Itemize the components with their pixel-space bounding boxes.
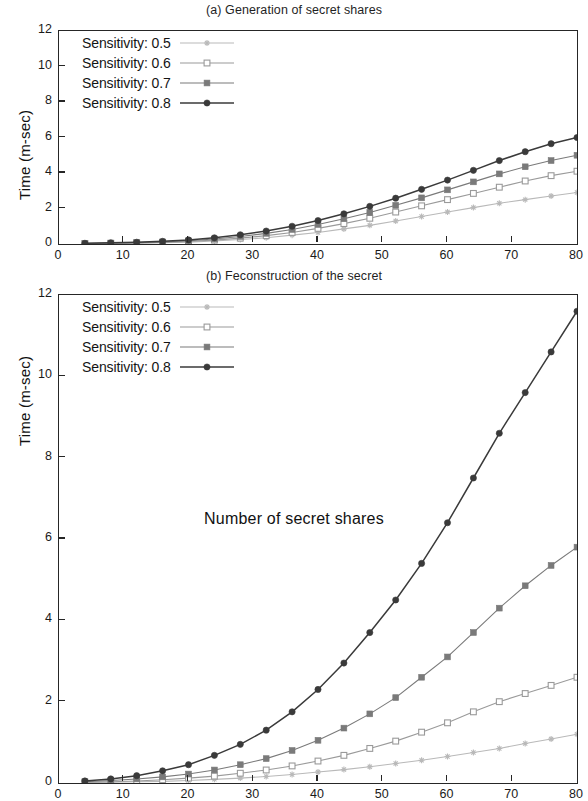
y-tick-mark [59, 456, 65, 457]
x-tick-label: 0 [38, 787, 78, 801]
legend-sample-open-square-icon [178, 55, 236, 71]
panel-a-y-axis-title: Time (m-sec) [16, 110, 33, 200]
y-tick-mark [59, 207, 65, 208]
series-sensitivity-0-6 [82, 168, 577, 244]
legend-label: Sensitivity: 0.6 [82, 55, 171, 71]
legend-label: Sensitivity: 0.7 [82, 339, 171, 355]
series-sensitivity-0-7 [82, 544, 577, 783]
legend-sample-open-square-icon [178, 319, 236, 335]
y-tick-label: 12 [24, 22, 52, 36]
legend-label: Sensitivity: 0.6 [82, 319, 171, 335]
legend-sample-filled-circle-icon [178, 359, 236, 375]
legend-label: Sensitivity: 0.5 [82, 299, 171, 315]
x-tick-mark [446, 236, 447, 242]
x-tick-label: 0 [38, 248, 78, 262]
x-tick-mark [122, 775, 123, 781]
y-tick-mark [59, 537, 65, 538]
y-tick-label: 6 [24, 129, 52, 143]
x-tick-label: 60 [427, 787, 467, 801]
legend-item-sensitivity-0-6[interactable]: Sensitivity: 0.6 [82, 53, 236, 72]
x-tick-label: 70 [491, 248, 531, 262]
x-tick-mark [381, 236, 382, 242]
x-tick-label: 40 [297, 248, 337, 262]
panel-a-title: (a) Generation of secret shares [0, 3, 588, 17]
x-tick-mark [511, 236, 512, 242]
x-tick-label: 10 [103, 787, 143, 801]
panel-a-legend: Sensitivity: 0.5Sensitivity: 0.6Sensitiv… [82, 33, 236, 112]
series-sensitivity-0-5 [82, 731, 577, 783]
x-tick-label: 30 [232, 248, 272, 262]
x-tick-label: 60 [427, 248, 467, 262]
x-axis-title: Number of secret shares [0, 510, 588, 528]
legend-item-sensitivity-0-8[interactable]: Sensitivity: 0.8 [82, 93, 236, 112]
y-tick-label: 8 [24, 449, 52, 463]
x-tick-label: 70 [491, 787, 531, 801]
y-tick-label: 2 [24, 693, 52, 707]
x-tick-label: 80 [556, 248, 588, 262]
y-tick-mark [59, 171, 65, 172]
x-tick-label: 20 [168, 787, 208, 801]
series-sensitivity-0-6 [82, 674, 577, 783]
y-tick-mark [59, 619, 65, 620]
panel-b-legend: Sensitivity: 0.5Sensitivity: 0.6Sensitiv… [82, 297, 236, 376]
panel-reconstruction-of-the-secret: (b) Feconstruction of the secret Time (m… [0, 266, 588, 565]
y-tick-mark [59, 100, 65, 101]
x-tick-mark [381, 775, 382, 781]
y-tick-label: 2 [24, 200, 52, 214]
y-tick-label: 10 [24, 367, 52, 381]
x-tick-mark [187, 775, 188, 781]
legend-item-sensitivity-0-5[interactable]: Sensitivity: 0.5 [82, 33, 236, 52]
legend-item-sensitivity-0-7[interactable]: Sensitivity: 0.7 [82, 337, 236, 356]
legend-label: Sensitivity: 0.8 [82, 95, 171, 111]
legend-label: Sensitivity: 0.5 [82, 35, 171, 51]
legend-sample-filled-square-icon [178, 339, 236, 355]
y-tick-label: 8 [24, 93, 52, 107]
x-tick-label: 20 [168, 248, 208, 262]
y-tick-mark [59, 65, 65, 66]
x-tick-mark [511, 775, 512, 781]
series-sensitivity-0-5 [82, 190, 577, 244]
series-sensitivity-0-7 [82, 152, 577, 244]
x-tick-mark [316, 775, 317, 781]
legend-item-sensitivity-0-8[interactable]: Sensitivity: 0.8 [82, 357, 236, 376]
x-tick-label: 10 [103, 248, 143, 262]
legend-item-sensitivity-0-5[interactable]: Sensitivity: 0.5 [82, 297, 236, 316]
x-tick-mark [252, 236, 253, 242]
x-tick-mark [316, 236, 317, 242]
y-tick-label: 0 [24, 235, 52, 249]
legend-sample-star-icon [178, 299, 236, 315]
y-tick-label: 0 [24, 774, 52, 788]
y-tick-mark [59, 136, 65, 137]
x-tick-mark [122, 236, 123, 242]
y-tick-label: 12 [24, 286, 52, 300]
legend-sample-filled-square-icon [178, 75, 236, 91]
x-tick-mark [187, 236, 188, 242]
y-tick-label: 10 [24, 58, 52, 72]
x-tick-mark [446, 775, 447, 781]
legend-label: Sensitivity: 0.8 [82, 359, 171, 375]
y-tick-mark [59, 375, 65, 376]
legend-sample-star-icon [178, 35, 236, 51]
x-tick-mark [252, 775, 253, 781]
x-tick-label: 50 [362, 787, 402, 801]
x-tick-label: 30 [232, 787, 272, 801]
legend-item-sensitivity-0-7[interactable]: Sensitivity: 0.7 [82, 73, 236, 92]
panel-generation-of-secret-shares: (a) Generation of secret shares Time (m-… [0, 0, 588, 282]
legend-sample-filled-circle-icon [178, 95, 236, 111]
series-sensitivity-0-8 [82, 308, 577, 783]
legend-label: Sensitivity: 0.7 [82, 75, 171, 91]
x-tick-label: 40 [297, 787, 337, 801]
x-tick-label: 80 [556, 787, 588, 801]
y-tick-label: 4 [24, 611, 52, 625]
panel-b-title: (b) Feconstruction of the secret [0, 269, 588, 283]
y-tick-label: 4 [24, 164, 52, 178]
legend-item-sensitivity-0-6[interactable]: Sensitivity: 0.6 [82, 317, 236, 336]
x-tick-label: 50 [362, 248, 402, 262]
y-tick-mark [59, 700, 65, 701]
y-tick-label: 6 [24, 530, 52, 544]
